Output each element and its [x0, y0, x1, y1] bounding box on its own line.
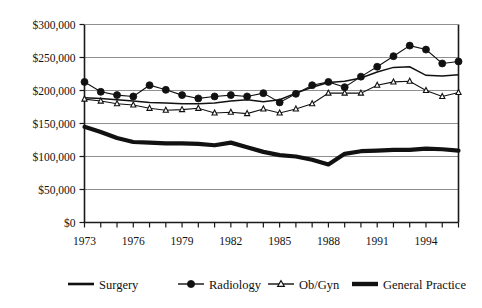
data-point-radiology: [341, 84, 348, 91]
series-line-general-practice: [85, 127, 459, 165]
gridlines: [85, 25, 459, 223]
data-point-radiology: [146, 82, 153, 89]
data-point-obgyn: [179, 107, 184, 112]
data-point-obgyn: [114, 101, 119, 106]
data-point-obgyn: [293, 106, 298, 111]
y-axis-labels: $300,000$250,000$200,000$150,000$100,000…: [32, 19, 75, 229]
data-point-radiology: [390, 53, 397, 60]
chart-legend: SurgeryRadiologyOb/GynGeneral Practice: [68, 278, 466, 292]
legend-item[interactable]: Radiology: [178, 278, 262, 292]
data-point-obgyn: [196, 105, 201, 110]
y-axis-tick-label: $200,000: [32, 85, 75, 98]
x-axis-tick-label: 1976: [122, 235, 145, 247]
y-axis-tick-label: $0: [64, 217, 76, 229]
legend-item-label: General Practice: [383, 278, 466, 292]
data-point-obgyn: [147, 105, 152, 110]
data-point-radiology: [406, 42, 413, 49]
data-point-obgyn: [245, 111, 250, 116]
data-point-radiology: [97, 88, 104, 95]
y-axis-tick-label: $300,000: [32, 19, 75, 32]
data-point-obgyn: [163, 107, 168, 112]
data-point-obgyn: [423, 87, 428, 92]
data-point-radiology: [422, 46, 429, 53]
y-axis-tick-label: $250,000: [32, 52, 75, 65]
legend-item-label: Ob/Gyn: [299, 278, 340, 292]
x-axis-tick-label: 1982: [219, 235, 242, 247]
data-point-radiology: [325, 78, 332, 85]
x-axis-tick-label: 1988: [317, 235, 340, 247]
line-chart: $300,000$250,000$200,000$150,000$100,000…: [0, 0, 482, 308]
x-axis-tick-label: 1985: [268, 235, 291, 247]
legend-item[interactable]: Ob/Gyn: [268, 278, 340, 292]
data-point-radiology: [195, 95, 202, 102]
data-point-radiology: [455, 58, 462, 65]
data-point-obgyn: [375, 82, 380, 87]
x-axis-labels: 19731976197919821985198819911994: [73, 235, 438, 247]
y-axis-tick-label: $150,000: [32, 118, 75, 131]
data-point-obgyn: [261, 106, 266, 111]
data-point-radiology: [292, 90, 299, 97]
data-point-radiology: [81, 78, 88, 85]
x-axis-tick-label: 1994: [414, 235, 437, 247]
data-point-obgyn: [310, 101, 315, 106]
data-point-radiology: [260, 90, 267, 97]
series-line-radiology: [85, 46, 459, 103]
data-point-obgyn: [391, 79, 396, 84]
data-point-radiology: [179, 92, 186, 99]
legend-marker-radiology-dot: [187, 280, 194, 287]
data-point-obgyn: [82, 96, 87, 101]
data-point-radiology: [162, 86, 169, 93]
data-point-radiology: [309, 82, 316, 89]
data-series-layer: [81, 42, 462, 164]
data-point-radiology: [211, 93, 218, 100]
data-point-obgyn: [131, 102, 136, 107]
data-point-obgyn: [277, 110, 282, 115]
x-axis-tick-label: 1991: [366, 235, 389, 247]
legend-item[interactable]: Surgery: [68, 278, 139, 292]
legend-item-label: Surgery: [99, 278, 139, 292]
chart-figure: $300,000$250,000$200,000$150,000$100,000…: [0, 0, 482, 308]
data-point-radiology: [357, 73, 364, 80]
y-axis-tick-label: $100,000: [32, 151, 75, 164]
legend-item[interactable]: General Practice: [352, 278, 466, 292]
data-point-radiology: [130, 93, 137, 100]
data-point-obgyn: [407, 78, 412, 83]
data-point-obgyn: [440, 93, 445, 98]
x-axis-tick-label: 1979: [171, 235, 194, 247]
data-point-radiology: [439, 60, 446, 67]
data-point-radiology: [374, 63, 381, 70]
legend-item-label: Radiology: [209, 278, 262, 292]
data-point-obgyn: [212, 110, 217, 115]
data-point-obgyn: [228, 109, 233, 114]
data-point-radiology: [114, 92, 121, 99]
data-point-radiology: [227, 92, 234, 99]
data-point-radiology: [244, 93, 251, 100]
data-point-radiology: [276, 99, 283, 106]
y-axis-tick-label: $50,000: [38, 184, 76, 197]
x-axis-tick-label: 1973: [73, 235, 96, 247]
